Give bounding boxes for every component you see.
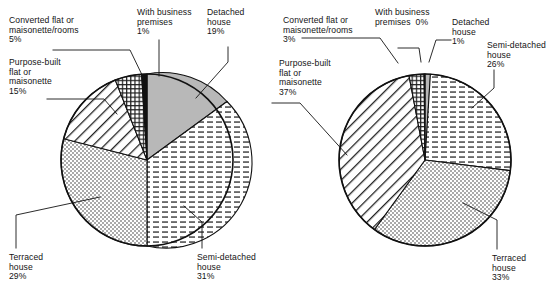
leader-right-purpose xyxy=(272,103,347,155)
label-left-business-pct: 1% xyxy=(137,27,192,37)
label-left-terraced: Terraced house29% xyxy=(9,253,43,282)
label-right-detached-pct: 1% xyxy=(452,37,489,47)
label-right-detached-text: Detached house xyxy=(452,17,489,37)
label-right-purpose: Purpose-built flat or maisonette37% xyxy=(279,59,331,97)
label-left-detached-pct: 19% xyxy=(207,27,244,37)
label-right-purpose-pct: 37% xyxy=(279,88,331,98)
label-left-converted-pct: 5% xyxy=(9,35,79,45)
label-right-semi-pct: 26% xyxy=(487,60,546,70)
label-right-terraced-text: Terraced house xyxy=(492,253,526,273)
label-left-terraced-pct: 29% xyxy=(9,272,43,282)
label-left-business: With business premises1% xyxy=(137,8,192,37)
label-right-terraced-pct: 33% xyxy=(492,273,526,283)
label-left-semi-text: Semi-detached house xyxy=(197,252,256,272)
label-right-converted-text: Converted flat or maisonette/rooms xyxy=(283,15,353,35)
leader-right-detached xyxy=(429,40,451,62)
label-right-semi: Semi-detached house26% xyxy=(487,41,546,70)
label-left-detached: Detached house19% xyxy=(207,8,244,37)
label-right-converted: Converted flat or maisonette/rooms3% xyxy=(283,16,353,45)
label-right-business-pct: 0% xyxy=(416,17,429,27)
right-slice-semi-detached[interactable] xyxy=(425,74,511,171)
label-right-terraced: Terraced house33% xyxy=(492,254,526,283)
leader-left-converted xyxy=(53,50,144,79)
label-right-detached: Detached house1% xyxy=(452,18,489,47)
label-left-semi-pct: 31% xyxy=(197,272,256,282)
label-left-converted: Converted flat or maisonette/rooms5% xyxy=(9,16,79,45)
right-pie-group xyxy=(339,74,511,246)
label-left-purpose: Purpose-built flat or maisonette15% xyxy=(9,58,61,96)
label-left-purpose-pct: 15% xyxy=(9,87,61,97)
label-left-semi: Semi-detached house31% xyxy=(197,253,256,282)
label-right-business: With business premises0% xyxy=(375,8,430,27)
label-left-purpose-text: Purpose-built flat or maisonette xyxy=(9,57,61,86)
pie-chart-figure: Converted flat or maisonette/rooms5% Pur… xyxy=(0,0,555,293)
label-right-purpose-text: Purpose-built flat or maisonette xyxy=(279,58,331,87)
label-left-converted-text: Converted flat or maisonette/rooms xyxy=(9,15,79,35)
label-right-semi-text: Semi-detached house xyxy=(487,40,546,60)
label-left-detached-text: Detached house xyxy=(207,7,244,27)
label-right-converted-pct: 3% xyxy=(283,35,353,45)
label-left-terraced-text: Terraced house xyxy=(9,252,43,272)
leader-right-business xyxy=(398,48,421,62)
label-left-business-text: With business premises xyxy=(137,7,192,27)
